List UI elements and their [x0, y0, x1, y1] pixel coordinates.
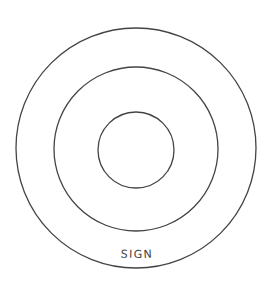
concentric-circles-diagram: SIGN — [0, 0, 270, 286]
middle-circle — [54, 67, 218, 231]
outer-circle — [16, 28, 256, 268]
sign-label: SIGN — [120, 247, 153, 261]
inner-circle — [98, 112, 174, 188]
